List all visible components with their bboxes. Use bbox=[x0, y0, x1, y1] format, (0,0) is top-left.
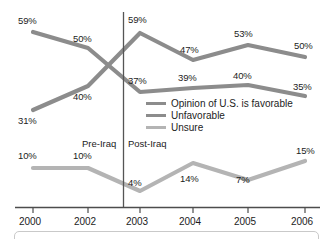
x-tick-label-2004: 2004 bbox=[179, 217, 201, 227]
chart-container: 59% 50% 37% 39% 40% 35% 31% 40% 59% 47% … bbox=[0, 0, 333, 239]
chart-legend: Opinion of U.S. is favorable Unfavorable… bbox=[146, 98, 293, 134]
data-label-favorable-2003: 37% bbox=[128, 76, 147, 86]
x-tick-label-2003: 2003 bbox=[126, 217, 148, 227]
legend-item-unfavorable[interactable]: Unfavorable bbox=[146, 110, 293, 121]
data-label-unsure-2005: 7% bbox=[236, 175, 250, 185]
data-label-favorable-2004: 39% bbox=[178, 73, 197, 83]
footer-panel bbox=[14, 231, 319, 239]
data-label-unsure-2000: 10% bbox=[18, 151, 37, 161]
data-label-favorable-2000: 59% bbox=[18, 16, 37, 26]
data-label-unfavorable-2003: 59% bbox=[128, 15, 147, 25]
data-label-favorable-2002: 50% bbox=[73, 34, 92, 44]
legend-swatch-favorable bbox=[146, 102, 166, 105]
legend-item-unsure[interactable]: Unsure bbox=[146, 122, 293, 133]
x-tick-label-2000: 2000 bbox=[19, 217, 41, 227]
data-label-unfavorable-2004: 47% bbox=[180, 45, 199, 55]
legend-item-favorable[interactable]: Opinion of U.S. is favorable bbox=[146, 98, 293, 109]
data-label-unsure-2004: 14% bbox=[180, 174, 199, 184]
legend-label-unfavorable: Unfavorable bbox=[171, 111, 225, 121]
data-label-favorable-2006: 35% bbox=[293, 82, 312, 92]
data-label-unsure-2002: 10% bbox=[73, 151, 92, 161]
legend-label-unsure: Unsure bbox=[171, 123, 203, 133]
annotation-post-iraq: Post-Iraq bbox=[128, 139, 167, 149]
x-tick-label-2005: 2005 bbox=[234, 217, 256, 227]
series-line-unsure bbox=[33, 161, 305, 191]
data-label-unfavorable-2006: 50% bbox=[294, 41, 313, 51]
data-label-favorable-2005: 40% bbox=[233, 71, 252, 81]
data-label-unfavorable-2005: 53% bbox=[234, 29, 253, 39]
x-tick-label-2002: 2002 bbox=[74, 217, 96, 227]
data-label-unfavorable-2000: 31% bbox=[18, 116, 37, 126]
data-label-unsure-2006: 15% bbox=[296, 146, 315, 156]
legend-label-favorable: Opinion of U.S. is favorable bbox=[171, 99, 293, 109]
data-label-unsure-2003: 4% bbox=[128, 178, 142, 188]
data-label-unfavorable-2002: 40% bbox=[73, 92, 92, 102]
legend-swatch-unfavorable bbox=[146, 114, 166, 117]
x-tick-label-2006: 2006 bbox=[291, 217, 313, 227]
annotation-pre-iraq: Pre-Iraq bbox=[82, 139, 116, 149]
legend-swatch-unsure bbox=[146, 126, 166, 129]
